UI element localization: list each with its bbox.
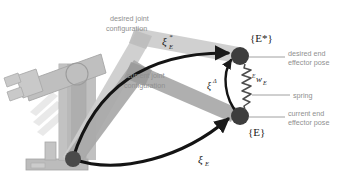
frame-label-current: {E} [248,126,265,138]
label-current-joint-configuration-line2: configuration [124,81,165,90]
robot-kinematics-figure: desired joint configuration current join… [0,0,342,179]
label-desired-joint-configuration-line1: desired joint [110,14,149,23]
current-end-effector-node [231,107,249,125]
label-current-end-effector-pose-line1: current end [288,109,324,118]
label-current-joint-configuration-line1: current joint [127,71,165,80]
symbol-xi-star-E-base: ξ [162,35,167,48]
symbol-xi-E-base: ξ [198,153,203,166]
diagram-canvas: desired joint configuration current join… [0,0,342,179]
label-desired-joint-configuration-line2: configuration [106,24,147,33]
label-spring: spring [293,91,313,100]
base-joint-node [65,151,81,167]
symbol-wrench-base: w [256,74,262,84]
symbol-xi-delta-superscript: Δ [212,77,217,84]
symbol-xi-star-E-subscript: E [168,43,173,50]
label-desired-end-effector-pose-line2: effector pose [288,58,329,67]
label-current-end-effector-pose-line2: effector pose [288,118,329,127]
symbol-wrench-subscript: E [262,80,267,86]
frame-label-desired: {E*} [250,32,273,44]
symbol-xi-star-E-superscript: * [169,33,173,41]
desired-end-effector-node [231,47,249,65]
symbol-xi-E-subscript: E [204,160,209,167]
label-desired-end-effector-pose-line1: desired end [288,49,326,58]
